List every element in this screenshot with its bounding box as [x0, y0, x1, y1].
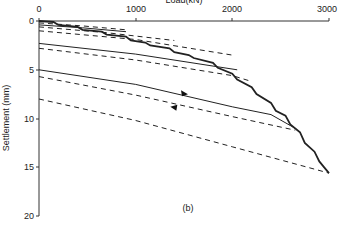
arrow-right-icon — [181, 90, 188, 96]
x-ticks: 0 1000 2000 3000 — [36, 4, 337, 21]
x-tick-3000: 3000 — [317, 4, 337, 14]
x-tick-2000: 2000 — [222, 4, 242, 14]
series-line-0 — [39, 21, 329, 173]
y-tick-15: 15 — [24, 162, 34, 172]
series-line-9 — [39, 99, 329, 173]
y-tick-20: 20 — [24, 211, 34, 221]
series-layer — [39, 21, 329, 173]
series-line-7 — [39, 70, 295, 129]
x-tick-0: 0 — [36, 4, 41, 14]
x-axis-title: Load(kN) — [165, 0, 202, 5]
y-tick-0: 0 — [29, 16, 34, 26]
x-tick-1000: 1000 — [126, 4, 146, 14]
y-tick-5: 5 — [29, 65, 34, 75]
arrow-left-icon — [170, 105, 177, 111]
series-line-8 — [39, 77, 295, 131]
y-tick-10: 10 — [24, 114, 34, 124]
y-axis-title: Settlement (mm) — [1, 85, 11, 152]
settlement-load-chart: Load(kN) 0 1000 2000 3000 0 5 10 15 20 S… — [0, 0, 345, 227]
y-ticks: 0 5 10 15 20 — [24, 16, 39, 221]
series-line-5 — [39, 43, 237, 69]
panel-label: (b) — [183, 203, 194, 213]
